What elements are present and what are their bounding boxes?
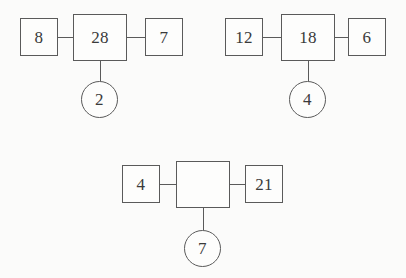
group-1-right-connector: [127, 37, 145, 38]
group-1-right-box[interactable]: 7: [145, 18, 183, 56]
group-3-left-box[interactable]: 4: [122, 165, 160, 203]
diagram-canvas: 8 28 7 2 12 18 6 4 4 21 7: [0, 0, 406, 278]
group-3-left-connector: [160, 184, 176, 185]
group-1-bottom-connector: [100, 61, 101, 81]
puzzle-group-2: 12 18 6 4: [225, 14, 387, 124]
group-1-left-box[interactable]: 8: [20, 18, 58, 56]
group-3-bottom-connector: [203, 208, 204, 230]
group-2-left-box[interactable]: 12: [225, 18, 263, 56]
group-3-bottom-circle[interactable]: 7: [184, 230, 221, 267]
puzzle-group-3: 4 21 7: [122, 161, 284, 273]
group-2-bottom-circle[interactable]: 4: [289, 81, 326, 118]
group-2-left-connector: [263, 37, 281, 38]
group-1-bottom-circle[interactable]: 2: [81, 81, 118, 118]
group-3-right-connector: [230, 184, 245, 185]
group-2-right-box[interactable]: 6: [348, 18, 386, 56]
group-2-center-box[interactable]: 18: [281, 14, 335, 61]
puzzle-group-1: 8 28 7 2: [20, 14, 182, 124]
group-1-left-connector: [58, 37, 73, 38]
group-3-center-box[interactable]: [176, 161, 230, 208]
group-2-bottom-connector: [308, 61, 309, 81]
group-1-center-box[interactable]: 28: [73, 14, 127, 61]
group-2-right-connector: [335, 37, 348, 38]
group-3-right-box[interactable]: 21: [245, 165, 283, 203]
